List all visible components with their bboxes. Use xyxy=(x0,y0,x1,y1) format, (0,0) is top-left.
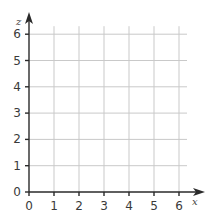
tick-labels: 01234560123456 xyxy=(13,27,182,213)
axis-ticks xyxy=(25,34,179,196)
x-tick-label: 3 xyxy=(100,199,108,213)
x-axis-label: x xyxy=(192,196,198,207)
z-tick-label: 1 xyxy=(13,159,21,173)
z-axis-label: z xyxy=(15,16,22,27)
z-tick-label: 4 xyxy=(13,80,21,94)
axes xyxy=(25,12,205,196)
z-tick-label: 2 xyxy=(13,132,21,146)
z-tick-label: 6 xyxy=(13,27,21,41)
coordinate-grid-chart: 01234560123456 x z xyxy=(0,0,211,217)
z-tick-label: 3 xyxy=(13,106,21,120)
x-tick-label: 2 xyxy=(75,199,83,213)
z-tick-label: 5 xyxy=(13,54,21,68)
x-tick-label: 6 xyxy=(175,199,183,213)
x-tick-label: 0 xyxy=(25,199,33,213)
z-tick-label: 0 xyxy=(13,185,21,199)
x-tick-label: 5 xyxy=(150,199,158,213)
x-tick-label: 4 xyxy=(125,199,133,213)
grid-lines xyxy=(29,26,187,192)
x-tick-label: 1 xyxy=(50,199,58,213)
